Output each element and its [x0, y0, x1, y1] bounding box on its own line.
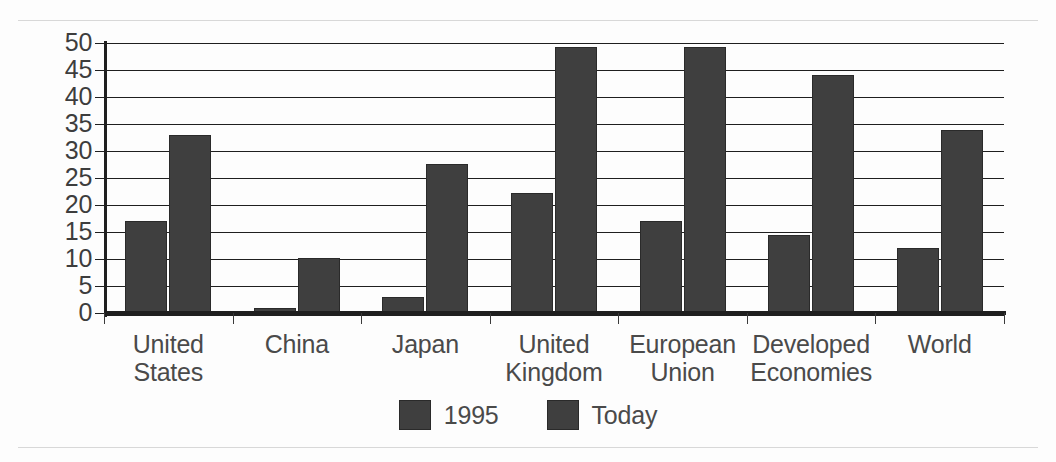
y-axis-tick	[95, 313, 104, 314]
x-axis-tick	[104, 313, 105, 324]
y-axis-tick-label: 50	[48, 30, 92, 55]
y-axis-tick	[95, 259, 104, 260]
y-axis-tick-label: 15	[48, 219, 92, 244]
legend-entry: 1995	[399, 400, 499, 430]
y-axis-tick-label: 35	[48, 111, 92, 136]
y-axis-tick-label: 45	[48, 57, 92, 82]
x-axis-tick	[233, 313, 234, 324]
x-axis-category-label-line: States	[84, 358, 253, 386]
legend-label: 1995	[444, 403, 499, 428]
plot-wrapper: 05101520253035404550 UnitedStatesChinaJa…	[0, 0, 1056, 462]
y-axis-tick-label: 20	[48, 192, 92, 217]
bar	[941, 130, 983, 313]
y-axis-tick	[95, 43, 104, 44]
x-axis-category-label: World	[855, 330, 1024, 358]
bar	[897, 248, 939, 313]
bar-group	[104, 43, 1004, 313]
y-axis-tick	[95, 124, 104, 125]
y-axis-tick-label: 10	[48, 246, 92, 271]
x-axis-category-label-line: Economies	[727, 358, 896, 386]
x-axis-tick	[361, 313, 362, 324]
x-axis-tick	[1004, 313, 1005, 324]
chart-figure: 05101520253035404550 UnitedStatesChinaJa…	[0, 0, 1056, 462]
y-axis-tick	[95, 178, 104, 179]
y-axis-tick	[95, 286, 104, 287]
x-axis-tick	[875, 313, 876, 324]
y-axis-tick-label: 25	[48, 165, 92, 190]
bar-series-layer	[104, 43, 1004, 313]
y-axis-tick-label: 5	[48, 273, 92, 298]
x-axis-tick	[747, 313, 748, 324]
y-axis-labels: 05101520253035404550	[36, 0, 92, 462]
legend-entry: Today	[547, 400, 658, 430]
y-axis-tick-label: 30	[48, 138, 92, 163]
legend-swatch	[547, 400, 579, 430]
y-axis-tick	[95, 151, 104, 152]
legend-label: Today	[592, 403, 658, 428]
x-axis-tick	[490, 313, 491, 324]
y-axis-tick	[95, 232, 104, 233]
chart-legend: 1995Today	[0, 400, 1056, 430]
y-axis-tick	[95, 205, 104, 206]
y-axis-tick-label: 40	[48, 84, 92, 109]
y-axis-tick	[95, 97, 104, 98]
x-axis-tick	[618, 313, 619, 324]
y-axis-tick	[95, 70, 104, 71]
x-axis-category-label-line: World	[855, 330, 1024, 358]
y-axis-tick-label: 0	[48, 300, 92, 325]
x-axis-line	[104, 311, 1006, 315]
legend-swatch	[399, 400, 431, 430]
